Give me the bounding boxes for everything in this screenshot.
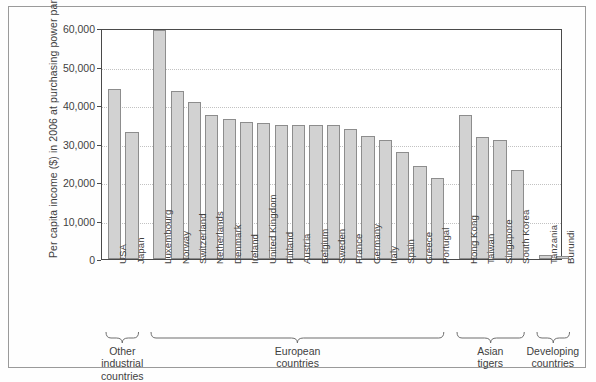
x-axis-category-label: Austria — [301, 233, 312, 264]
group-label-line: European — [238, 345, 358, 357]
x-axis-category-label: Japan — [135, 237, 146, 264]
group-label-line: countries — [62, 370, 182, 382]
figure-frame: Per capita income ($) in 2006 at purchas… — [8, 6, 586, 368]
group-label: Otherindustrialcountries — [62, 345, 182, 382]
y-axis-tick-mark — [97, 222, 101, 223]
x-axis-category-label: Burundi — [565, 230, 576, 264]
x-axis-category-label: Greece — [423, 232, 434, 264]
x-axis-category-label: Tanzania — [548, 225, 559, 264]
x-axis-category-label: Netherlands — [214, 211, 225, 264]
group-brace — [106, 332, 139, 343]
x-axis-category-label: Hong Kong — [468, 215, 479, 264]
y-axis-tick-mark — [97, 260, 101, 261]
y-axis-tick-label: 60,000 — [31, 23, 95, 35]
y-axis-tick-label: 50,000 — [31, 62, 95, 74]
y-axis-tick-mark — [97, 145, 101, 146]
gridline — [102, 69, 561, 70]
y-axis-tick-label: 30,000 — [31, 139, 95, 151]
x-axis-category-label: Singapore — [503, 219, 514, 264]
y-axis-tick-label: 0 — [31, 254, 95, 266]
group-label: Europeancountries — [238, 345, 358, 370]
group-label-line: Other — [62, 345, 182, 357]
y-axis-tick-mark — [97, 68, 101, 69]
x-axis-category-label: South Korea — [520, 210, 531, 264]
group-label: Developingcountries — [493, 345, 596, 370]
x-axis-category-label: Ireland — [249, 234, 260, 264]
y-axis-tick-label: 10,000 — [31, 216, 95, 228]
group-label-line: countries — [238, 357, 358, 369]
group-brace — [537, 332, 570, 343]
x-axis-category-label: Belgium — [319, 229, 330, 264]
x-axis-category-label: Germany — [371, 224, 382, 264]
group-brace — [457, 332, 524, 343]
x-axis-category-label: Switzerland — [197, 213, 208, 264]
figure: Per capita income ($) in 2006 at purchas… — [0, 0, 596, 382]
y-axis-tick-mark — [97, 183, 101, 184]
x-axis-category-label: Sweden — [336, 229, 347, 264]
x-axis-category-label: Italy — [388, 246, 399, 264]
x-axis-category-label: Taiwan — [485, 234, 496, 264]
x-axis-category-label: Luxembourg — [162, 210, 173, 264]
group-brace — [151, 332, 444, 343]
x-axis-category-label: Spain — [405, 239, 416, 264]
x-axis-category-label: USA — [117, 244, 128, 264]
y-axis-tick-label: 40,000 — [31, 100, 95, 112]
x-axis-category-label: Finland — [284, 232, 295, 264]
x-axis-category-label: Portugal — [440, 227, 451, 264]
group-label-line: industrial — [62, 357, 182, 369]
x-axis-category-label: France — [353, 234, 364, 264]
y-axis-tick-label: 20,000 — [31, 177, 95, 189]
y-axis-tick-mark — [97, 106, 101, 107]
x-axis-category-label: Norway — [180, 231, 191, 264]
group-label-line: countries — [493, 357, 596, 369]
x-axis-category-label: Denmark — [232, 224, 243, 264]
y-axis-tick-mark — [97, 29, 101, 30]
group-label-line: Developing — [493, 345, 596, 357]
x-axis-category-label: United Kingdom — [267, 194, 278, 264]
bar — [108, 89, 121, 259]
